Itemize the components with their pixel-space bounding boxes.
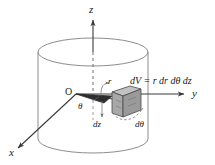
radius-label: r bbox=[108, 77, 112, 86]
dz-label: dz bbox=[93, 120, 101, 129]
y-axis-label: y bbox=[192, 88, 197, 99]
z-axis-label: z bbox=[89, 4, 93, 15]
cylindrical-volume-element-figure: z y x O r θ dz dθ dV = r dr dθ dz bbox=[0, 0, 215, 165]
cylinder-bottom-arc bbox=[38, 139, 148, 153]
wedge-front-face bbox=[112, 92, 123, 117]
volume-element-wedge bbox=[112, 86, 141, 117]
origin-label: O bbox=[65, 87, 72, 97]
x-axis-line bbox=[18, 94, 76, 148]
x-axis bbox=[18, 94, 76, 148]
x-axis-label: x bbox=[9, 147, 14, 158]
dtheta-label: dθ bbox=[135, 120, 144, 129]
volume-element-formula: dV = r dr dθ dz bbox=[130, 76, 192, 86]
theta-label: θ bbox=[78, 102, 82, 111]
